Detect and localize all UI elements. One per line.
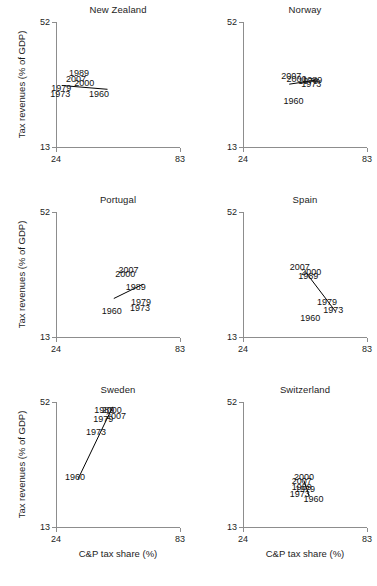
multi-panel-scatter-figure: New Zealand52132483198920072000197919731… [0, 0, 377, 586]
x-axis-title: C&P tax share (%) [266, 548, 345, 559]
point-label: 1960 [303, 494, 323, 504]
